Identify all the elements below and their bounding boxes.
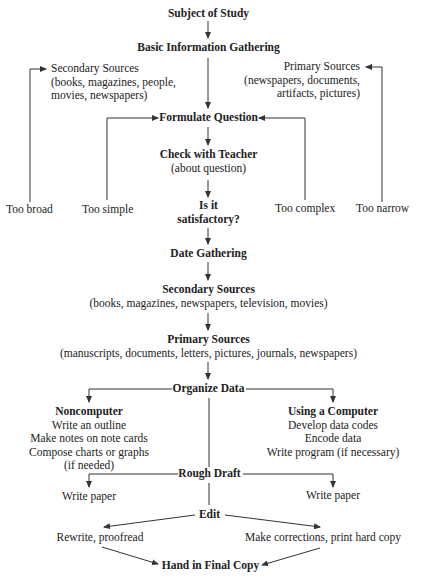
noncomputer-item: Compose charts or graphs: [0, 446, 178, 460]
node-secondary-sources-top: Secondary Sources (books, magazines, peo…: [51, 62, 176, 103]
node-too-simple: Too simple: [82, 203, 133, 217]
secondary-top-title: Secondary Sources: [51, 62, 176, 76]
node-check-with-teacher: Check with Teacher (about question): [0, 148, 417, 175]
node-make-corrections: Make corrections, print hard copy: [236, 531, 410, 545]
node-primary-sources: Primary Sources (manuscripts, documents,…: [0, 333, 417, 360]
node-write-paper-right: Write paper: [256, 489, 410, 503]
node-date-gathering: Date Gathering: [0, 247, 417, 261]
check-teacher-sub: (about question): [0, 162, 417, 176]
secondary-top-line1: (books, magazines, people,: [51, 76, 176, 90]
noncomputer-item: Make notes on note cards: [0, 432, 178, 446]
node-write-paper-left: Write paper: [0, 490, 178, 504]
node-too-complex: Too complex: [275, 202, 335, 216]
node-edit: Edit: [0, 508, 419, 522]
primary-top-title: Primary Sources: [244, 60, 360, 74]
secondary-top-line2: movies, newspapers): [51, 89, 176, 103]
node-is-it-satisfactory: Is it satisfactory?: [0, 199, 417, 226]
node-too-narrow: Too narrow: [356, 202, 409, 216]
noncomputer-item: Write an outline: [0, 419, 178, 433]
secondary-mid-sub: (books, magazines, newspapers, televisio…: [0, 297, 417, 311]
computer-title: Using a Computer: [256, 405, 410, 419]
computer-item: Write program (if necessary): [256, 446, 410, 460]
check-teacher-title: Check with Teacher: [0, 148, 417, 162]
noncomputer-title: Noncomputer: [0, 405, 178, 419]
node-using-a-computer: Using a Computer Develop data codes Enco…: [256, 405, 410, 459]
computer-item: Encode data: [256, 432, 410, 446]
node-secondary-sources: Secondary Sources (books, magazines, new…: [0, 283, 417, 310]
primary-mid-title: Primary Sources: [0, 333, 417, 347]
primary-mid-sub: (manuscripts, documents, letters, pictur…: [0, 347, 417, 361]
node-formulate-question: Formulate Question: [0, 111, 417, 125]
secondary-mid-title: Secondary Sources: [0, 283, 417, 297]
primary-top-line1: (newspapers, documents,: [244, 74, 360, 88]
satisfactory-line2: satisfactory?: [0, 213, 417, 227]
node-too-broad: Too broad: [6, 203, 53, 217]
node-basic-information-gathering: Basic Information Gathering: [0, 41, 417, 55]
primary-top-line2: artifacts, pictures): [244, 87, 360, 101]
node-organize-data: Organize Data: [0, 382, 417, 396]
node-primary-sources-top: Primary Sources (newspapers, documents, …: [244, 60, 360, 101]
node-subject-of-study: Subject of Study: [0, 7, 417, 21]
satisfactory-line1: Is it: [0, 199, 417, 213]
computer-item: Develop data codes: [256, 419, 410, 433]
node-hand-in-final-copy: Hand in Final Copy: [0, 559, 421, 573]
node-noncomputer: Noncomputer Write an outline Make notes …: [0, 405, 178, 473]
node-rewrite-proofread: Rewrite, proofread: [0, 531, 200, 545]
node-rough-draft: Rough Draft: [0, 467, 419, 481]
